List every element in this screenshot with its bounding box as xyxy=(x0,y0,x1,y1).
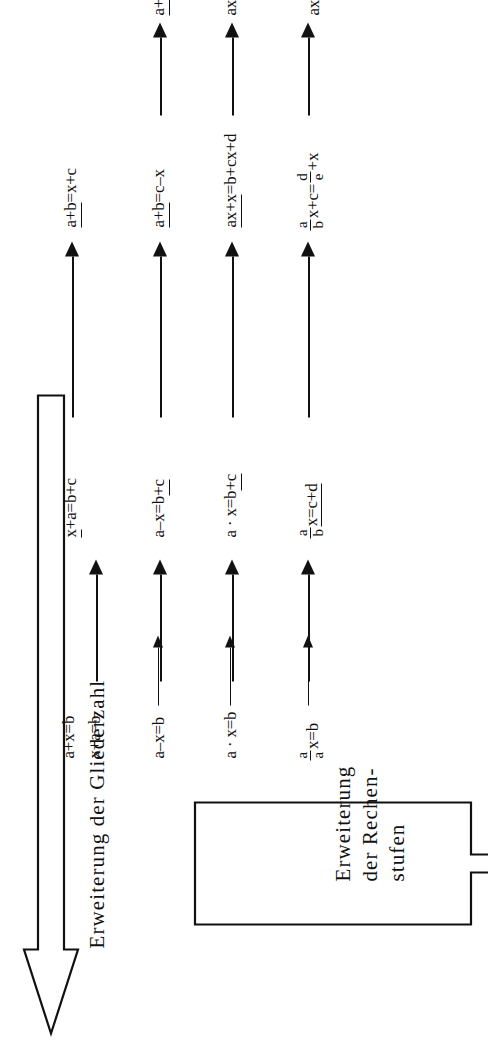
row4-arrow-1-shaft xyxy=(308,574,310,681)
rowconnector-1-shaft xyxy=(158,647,159,705)
row3-arrow-3-head xyxy=(225,22,239,37)
row2-arrow-3-shaft xyxy=(160,37,162,115)
row2-arrow-2-shaft xyxy=(160,256,162,417)
row4-arrow-2-shaft xyxy=(308,256,310,417)
row4-step-1-rest: x=c+d xyxy=(303,483,322,526)
row4-arrow-3-head xyxy=(301,22,315,37)
row1-step-2-rest: =x+c xyxy=(61,168,80,202)
row4-step-2-result: a b x+c= d e +x xyxy=(297,152,329,231)
row2-base-primary: a–x=b xyxy=(150,716,167,758)
row4-step-2-tail: +x xyxy=(304,152,321,170)
row2-arrow-1-head xyxy=(153,559,167,574)
row3-step-2-result: ax+x=b+cx+d xyxy=(222,133,239,227)
row2-step-1-result: a–x=b+c xyxy=(150,479,167,537)
row1-step-1-underlined: x xyxy=(61,529,82,537)
row4-base-rest: x=b xyxy=(304,723,321,749)
axis-label-rechenstufen: Erweiterung der Rechen- stufen xyxy=(330,651,411,881)
row1-base-secondary: x+a=b xyxy=(86,715,103,758)
row3-step-2-underlined: ax+x xyxy=(221,194,242,227)
row2-step-2-result: a+b=c–x xyxy=(150,169,167,227)
diagram-canvas: Erweiterung der Gliederzahl Erweiterung … xyxy=(0,0,488,1053)
row4-step-2-fraction-left: a b xyxy=(295,219,327,230)
row1-arrow-1-head xyxy=(89,559,103,574)
row4-step-2-numerator-left: a xyxy=(295,219,310,229)
axis-label-rechenstufen-line3: stufen xyxy=(384,651,411,881)
row1-arrow-2-shaft xyxy=(72,256,74,417)
row1-step-2-result: a+b=x+c xyxy=(62,168,79,227)
row2-step-1-underlined: +c xyxy=(149,479,170,496)
row4-step-2-numerator-right: d xyxy=(295,171,310,182)
row3-arrow-1-shaft xyxy=(232,574,234,681)
row2-step-2-rest: =c–x xyxy=(149,169,168,202)
row4-step-2-denominator-right: e xyxy=(310,171,326,181)
row2-step-1-lead: a–x=b xyxy=(149,495,168,537)
row3-arrow-2-shaft xyxy=(232,256,234,417)
row4-step-2-denominator-left: b xyxy=(310,219,326,230)
row4-step-1-numerator: a xyxy=(295,527,310,537)
row3-step-2-rest: =b+cx+d xyxy=(221,133,240,193)
row2-arrow-2-head xyxy=(153,241,167,256)
row4-step-1-denominator: b xyxy=(310,527,326,538)
row4-step-1-result: a b x=c+d xyxy=(297,483,329,539)
row3-step-1-underlined: +c xyxy=(221,473,242,490)
row3-arrow-2-head xyxy=(225,241,239,256)
row3-arrow-1-head xyxy=(225,559,239,574)
row4-base-fraction: a a xyxy=(295,750,327,760)
row1-base-primary: a+x=b xyxy=(60,715,77,758)
row4-base-denominator: a xyxy=(310,750,326,760)
rowconnector-2-shaft xyxy=(230,647,231,705)
row2-step-2-underlined: a+b xyxy=(149,202,170,227)
row1-step-1-result: x+a=b+c xyxy=(62,478,79,537)
row4-step-1-fraction: a b xyxy=(295,527,327,538)
row4-step-2-mid: x+c= xyxy=(304,183,321,217)
row3-step-1-lead: a · x=b xyxy=(221,490,240,537)
row1-step-1-rest: +a=b+c xyxy=(61,478,80,529)
row1-arrow-1-shaft xyxy=(96,574,98,681)
row4-arrow-1-head xyxy=(301,559,315,574)
row3-step-1-result: a · x=b+c xyxy=(222,473,239,537)
row4-step-2-fraction-right: d e xyxy=(295,171,327,182)
axis-label-rechenstufen-line1: Erweiterung xyxy=(330,651,357,881)
axis-label-rechenstufen-line2: der Rechen- xyxy=(357,651,384,881)
row1-arrow-2-head xyxy=(65,241,79,256)
row4-arrow-3-shaft xyxy=(308,37,310,115)
row3-arrow-3-shaft xyxy=(232,37,234,115)
row2-arrow-1-shaft xyxy=(160,574,162,681)
row4-base-primary: a a x=b xyxy=(297,723,329,761)
row1-step-2-underlined: a+b xyxy=(61,202,82,227)
row4-base-numerator: a xyxy=(295,750,310,760)
row4-arrow-2-head xyxy=(301,241,315,256)
row3-base-primary: a · x=b xyxy=(222,711,239,758)
row2-arrow-3-head xyxy=(153,22,167,37)
